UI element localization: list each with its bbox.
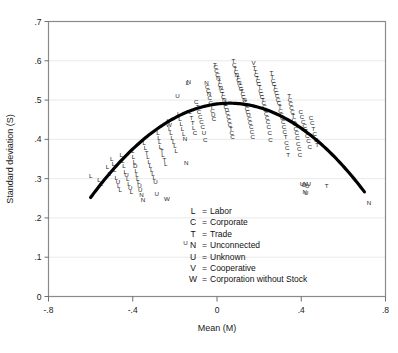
data-point-N: N [184,159,188,166]
x-tick-label: -.4 [128,305,138,315]
data-point-C: C [230,133,235,140]
data-point-T: T [286,151,290,158]
x-tick-label: -.8 [44,305,54,315]
data-point-U: U [183,239,187,246]
data-point-C: C [251,133,256,140]
data-point-U: U [307,180,311,187]
legend-separator: = [202,240,207,250]
figure-background [0,0,398,353]
data-point-L: L [118,186,122,193]
data-point-N: N [187,78,191,85]
legend-key-U: U [190,252,196,262]
y-tick-label: .6 [34,56,41,66]
data-point-C: C [298,151,303,158]
legend-key-W: W [189,274,197,284]
data-point-L: L [174,147,178,154]
legend-separator: = [202,274,207,284]
y-axis-title: Standard deviation (S) [5,114,15,204]
data-point-U: U [175,92,179,99]
data-point-N: N [367,199,371,206]
legend-key-V: V [190,263,196,273]
legend-label-T: Trade [210,229,232,239]
x-tick-label: .8 [382,305,389,315]
y-tick-label: .7 [34,17,41,27]
data-point-L: L [89,172,93,179]
legend-label-V: Cooperative [210,263,256,273]
data-point-W: W [164,195,170,202]
data-point-C: C [212,115,217,122]
legend-label-W: Corporation without Stock [210,274,308,284]
y-tick-label: .3 [34,174,41,184]
y-tick-label: .1 [34,252,41,262]
y-tick-label: .5 [34,95,41,105]
scatter-plot-svg: 0.1.2.3.4.5.6.7 -.8-.40.4.8 LLLLLLLLLULL… [0,0,398,353]
data-point-U: U [155,190,159,197]
legend-separator: = [202,217,207,227]
legend-label-U: Unknown [210,252,246,262]
data-point-L: L [164,160,168,167]
data-point-T: T [325,182,329,189]
x-axis-title: Mean (M) [198,323,237,333]
x-tick-label: 0 [215,305,220,315]
legend-key-L: L [191,206,196,216]
data-point-N: N [141,196,145,203]
y-tick-label: .2 [34,213,41,223]
x-tick-label: .4 [298,305,305,315]
legend-label-C: Corporate [210,217,248,227]
legend-key-C: C [190,217,196,227]
data-point-U: U [202,129,206,136]
data-point-C: C [267,129,272,136]
legend-separator: = [202,229,207,239]
data-point-C: C [203,136,208,143]
legend-separator: = [202,206,207,216]
data-point-C: C [193,129,198,136]
legend-separator: = [202,263,207,273]
legend-label-L: Labor [210,206,232,216]
y-tick-label: .4 [34,134,41,144]
data-point-C: C [268,136,273,143]
legend-key-T: T [190,229,195,239]
data-point-L: L [130,188,134,195]
data-point-U: U [304,189,308,196]
data-point-C: C [307,143,312,150]
legend-label-N: Unconnected [210,240,260,250]
data-point-N: N [183,135,187,142]
data-point-U: U [153,178,157,185]
y-tick-label: 0 [37,292,42,302]
legend-key-N: N [190,240,196,250]
chart-figure: 0.1.2.3.4.5.6.7 -.8-.40.4.8 LLLLLLLLLULL… [0,0,398,353]
legend-separator: = [202,252,207,262]
